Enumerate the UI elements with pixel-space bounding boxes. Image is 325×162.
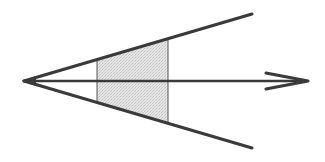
cone-diagram xyxy=(0,0,325,162)
apex-point xyxy=(22,76,36,86)
